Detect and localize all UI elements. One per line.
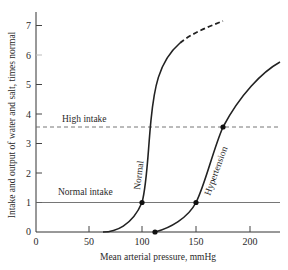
y-tick-label-0: 0 bbox=[26, 226, 31, 237]
y-tick-label-2: 2 bbox=[26, 168, 31, 179]
hypertension-curve bbox=[155, 62, 280, 232]
y-tick-label-5: 5 bbox=[26, 79, 31, 90]
marker-hypertension-start bbox=[152, 229, 157, 234]
y-tick-label-6: 6 bbox=[26, 50, 31, 61]
y-axis-title: Intake and output of water and salt, tim… bbox=[7, 31, 17, 218]
y-tick-label-7: 7 bbox=[26, 20, 31, 31]
x-tick-label-150: 150 bbox=[189, 236, 204, 247]
x-tick-label-50: 50 bbox=[84, 236, 94, 247]
normal-curve-label: Normal bbox=[132, 160, 146, 190]
x-tick-label-200: 200 bbox=[243, 236, 258, 247]
hypertension-curve-label: Hypertension bbox=[202, 145, 229, 197]
marker-hypertension-high-intake bbox=[220, 124, 225, 129]
y-tick-label-4: 4 bbox=[26, 109, 31, 120]
marker-hypertension-normal-intake bbox=[193, 200, 198, 205]
normal-intake-label: Normal intake bbox=[58, 187, 113, 197]
x-ticks: 0 50 100 150 200 bbox=[34, 226, 258, 247]
high-intake-label: High intake bbox=[62, 114, 107, 124]
y-tick-label-1: 1 bbox=[26, 197, 31, 208]
marker-normal-equilibrium bbox=[139, 200, 144, 205]
renal-output-chart: 0 1 2 3 4 5 6 7 0 50 100 150 200 Mean ar… bbox=[0, 0, 288, 270]
x-tick-label-0: 0 bbox=[34, 236, 39, 247]
y-tick-label-3: 3 bbox=[26, 138, 31, 149]
x-tick-label-100: 100 bbox=[135, 236, 150, 247]
y-ticks: 0 1 2 3 4 5 6 7 bbox=[26, 20, 42, 237]
x-axis-title: Mean arterial pressure, mmHg bbox=[100, 252, 216, 262]
normal-curve-extrapolated bbox=[180, 21, 223, 43]
